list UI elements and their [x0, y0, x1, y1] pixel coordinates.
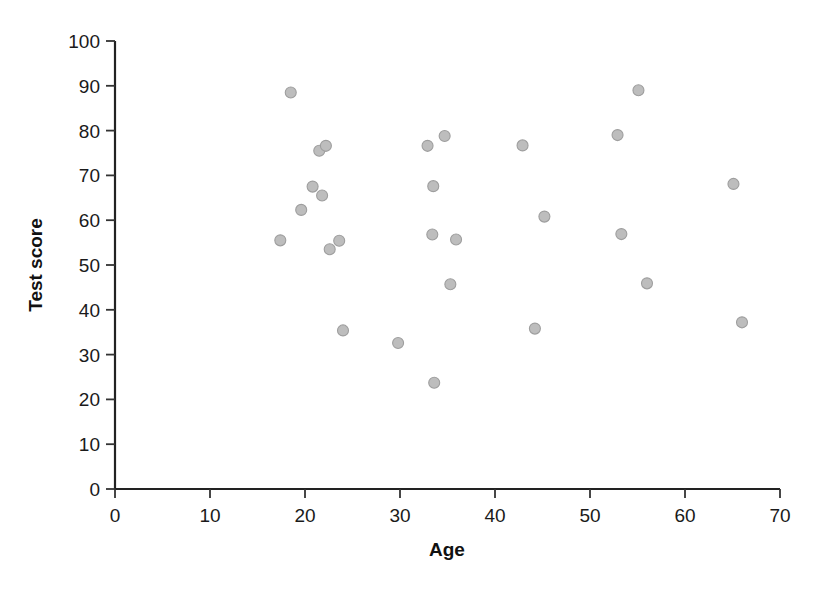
y-tick-label: 20	[79, 389, 100, 410]
scatter-point	[307, 181, 318, 192]
x-tick-label: 70	[769, 505, 790, 526]
scatter-point	[275, 235, 286, 246]
scatter-point	[517, 140, 528, 151]
scatter-point	[334, 235, 345, 246]
scatter-point	[439, 130, 450, 141]
y-tick-label: 70	[79, 165, 100, 186]
scatter-point	[429, 377, 440, 388]
scatter-point	[642, 278, 653, 289]
scatter-point	[539, 211, 550, 222]
scatter-point	[616, 229, 627, 240]
y-axis: 0102030405060708090100	[68, 31, 115, 500]
scatter-markers-group	[275, 85, 748, 389]
x-tick-label: 60	[674, 505, 695, 526]
x-tick-label: 40	[484, 505, 505, 526]
scatter-point	[728, 178, 739, 189]
scatter-plot-figure: 0102030405060708090100 010203040506070 A…	[0, 0, 835, 589]
scatter-point	[296, 204, 307, 215]
x-tick-label: 0	[110, 505, 121, 526]
y-tick-label: 100	[68, 31, 100, 52]
scatter-point	[320, 140, 331, 151]
y-axis-tick-labels: 0102030405060708090100	[68, 31, 100, 500]
scatter-point	[393, 337, 404, 348]
y-tick-label: 90	[79, 76, 100, 97]
scatter-point	[451, 234, 462, 245]
x-tick-label: 10	[199, 505, 220, 526]
x-tick-label: 20	[294, 505, 315, 526]
y-axis-title: Test score	[25, 218, 46, 312]
scatter-point	[612, 130, 623, 141]
y-tick-label: 30	[79, 345, 100, 366]
scatter-point	[529, 323, 540, 334]
x-tick-label: 50	[579, 505, 600, 526]
scatter-point	[427, 229, 438, 240]
y-axis-ticks	[106, 41, 115, 489]
plot-canvas: 0102030405060708090100 010203040506070 A…	[0, 0, 835, 589]
scatter-point	[737, 317, 748, 328]
scatter-point	[633, 85, 644, 96]
y-tick-label: 10	[79, 434, 100, 455]
x-axis-ticks	[115, 489, 780, 498]
scatter-point	[285, 87, 296, 98]
scatter-point	[317, 190, 328, 201]
x-axis-title: Age	[429, 539, 465, 560]
y-tick-label: 40	[79, 300, 100, 321]
scatter-point	[338, 325, 349, 336]
y-tick-label: 60	[79, 210, 100, 231]
x-axis-tick-labels: 010203040506070	[110, 505, 791, 526]
scatter-point	[422, 140, 433, 151]
x-axis: 010203040506070	[110, 489, 791, 526]
y-tick-label: 50	[79, 255, 100, 276]
scatter-point	[445, 279, 456, 290]
scatter-point	[324, 244, 335, 255]
y-tick-label: 80	[79, 121, 100, 142]
x-tick-label: 30	[389, 505, 410, 526]
scatter-point	[428, 181, 439, 192]
y-tick-label: 0	[89, 479, 100, 500]
